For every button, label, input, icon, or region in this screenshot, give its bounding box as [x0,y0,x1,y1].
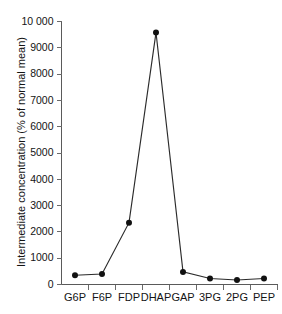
x-axis-tick-label-fdp: FDP [118,291,140,303]
x-axis-tick-label-g6p: G6P [64,291,86,303]
data-point-g6p [72,272,78,278]
y-axis-tick-label: 4000 [30,173,54,185]
data-point-fdp [126,220,132,226]
line-chart: 010002000300040005000600070008000900010 … [0,0,282,314]
y-axis-tick-label: 2000 [30,225,54,237]
data-point-3pg [207,275,213,281]
y-axis-tick-label: 9000 [30,41,54,53]
y-axis-tick-label: 5000 [30,146,54,158]
y-axis-tick-label: 3000 [30,199,54,211]
data-point-gap [180,269,186,275]
data-point-2pg [234,277,240,283]
x-axis-tick-label-gap: GAP [171,291,194,303]
y-axis-title: Intermediate concentration (% of normal … [15,37,27,267]
y-axis-tick-label: 8000 [30,67,54,79]
data-point-dhap [153,30,159,36]
y-axis-tick-label: 1000 [30,251,54,263]
chart-figure: 010002000300040005000600070008000900010 … [0,0,282,314]
data-point-f6p [99,271,105,277]
x-axis-tick-label-pep: PEP [253,291,275,303]
x-axis-tick-label-f6p: F6P [92,291,112,303]
x-axis-tick-labels: G6PF6PFDPDHAPGAP3PG2PGPEP [64,291,275,303]
x-axis-tick-label-dhap: DHAP [141,291,172,303]
y-axis-tick-label: 7000 [30,94,54,106]
y-axis-tick-label: 0 [48,278,54,290]
x-axis-tick-label-3pg: 3PG [199,291,221,303]
x-axis-tick-label-2pg: 2PG [226,291,248,303]
y-axis-tick-label: 10 000 [21,15,53,27]
y-axis-tick-label: 6000 [30,120,54,132]
data-point-pep [261,275,267,281]
